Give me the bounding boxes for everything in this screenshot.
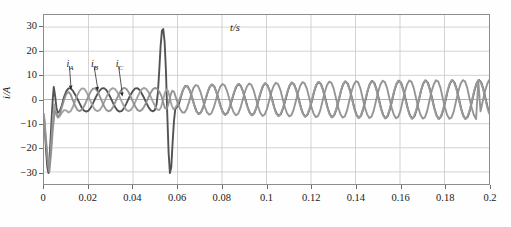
x-tick-label: 0.02	[79, 192, 97, 203]
x-tick-mark	[222, 185, 223, 189]
x-axis-title: t/s	[230, 22, 240, 33]
x-tick-label: 0.18	[436, 192, 454, 203]
y-tick-label: 10	[27, 70, 38, 80]
x-tick-label: 0.1	[260, 192, 273, 203]
y-tick-label: −20	[21, 143, 37, 153]
plot-area	[43, 14, 490, 185]
y-tick-label: 20	[27, 46, 38, 56]
x-tick-mark	[445, 185, 446, 189]
chart-figure: 3020100−10−20−30 i/A iAiBiC 00.020.040.0…	[0, 0, 511, 227]
x-tick-label: 0.06	[168, 192, 186, 203]
x-tick-label: 0.04	[123, 192, 141, 203]
x-tick-label: 0	[40, 192, 45, 203]
x-tick-mark	[88, 185, 89, 189]
series-line-ib	[44, 80, 489, 170]
series-line-ia	[44, 29, 489, 173]
data-curves	[44, 15, 489, 184]
y-tick-label: 0	[32, 95, 37, 105]
x-tick-label: 0.2	[483, 192, 496, 203]
x-tick-mark	[356, 185, 357, 189]
x-tick-label: 0.14	[347, 192, 365, 203]
series-line-ic	[44, 80, 489, 172]
x-tick-label: 0.12	[302, 192, 320, 203]
x-tick-mark	[177, 185, 178, 189]
y-tick-label: −10	[21, 119, 37, 129]
x-tick-mark	[132, 185, 133, 189]
y-tick-label: 30	[27, 21, 38, 31]
y-tick-label: −30	[21, 168, 37, 178]
y-axis-title: i/A	[1, 87, 12, 99]
x-tick-mark	[401, 185, 402, 189]
x-tick-mark	[267, 185, 268, 189]
x-axis-title-text: t/s	[230, 22, 240, 33]
x-tick-mark	[490, 185, 491, 189]
x-tick-mark	[43, 185, 44, 189]
x-axis: 00.020.040.060.080.10.120.140.160.180.2	[0, 185, 511, 227]
x-tick-label: 0.08	[213, 192, 231, 203]
x-tick-label: 0.16	[391, 192, 409, 203]
x-tick-mark	[311, 185, 312, 189]
y-axis-title-text: i/A	[1, 87, 12, 99]
